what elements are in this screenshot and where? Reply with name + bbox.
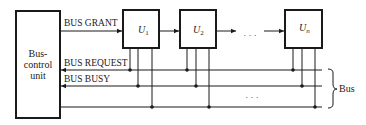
unit-taps (130, 48, 315, 107)
ellipsis-top: · · · (243, 30, 257, 40)
bus-grant-label: BUS GRANT (64, 18, 118, 28)
unit-2: U2 (180, 10, 216, 48)
ellipsis-bus: · · · (245, 92, 259, 102)
unit-n: Un (285, 10, 322, 48)
controller-label-1: Bus- (29, 48, 48, 59)
bus-busy-label: BUS BUSY (64, 74, 110, 84)
bus-request-label: BUS REQUEST (64, 58, 128, 68)
controller-label-2: control (24, 59, 53, 70)
unit-1: U1 (123, 10, 159, 48)
bus-control-unit: Bus- control unit (16, 11, 60, 118)
controller-label-3: unit (30, 70, 46, 81)
junction-dots (128, 68, 317, 109)
bus-arbitration-diagram: Bus- control unit BUS GRANT · · · U1 U2 … (0, 0, 366, 125)
bus-brace (328, 69, 337, 108)
bus-label: Bus (339, 83, 355, 94)
